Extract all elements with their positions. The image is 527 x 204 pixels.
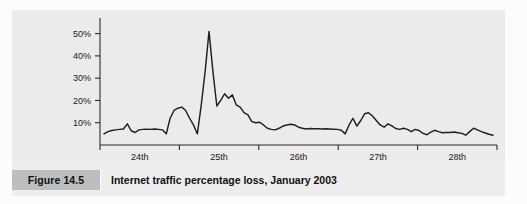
y-axis-tick-label: 20% [73, 96, 91, 106]
caption-divider [100, 170, 101, 190]
y-axis-tick-label: 10% [73, 118, 91, 128]
figure-number-badge: Figure 14.5 [12, 170, 100, 190]
figure-container: 10%20%30%40%50% 24th25th26th27th28th Fig… [0, 0, 527, 204]
x-axis-tick-label: 24th [131, 152, 149, 162]
line-chart: 10%20%30%40%50% 24th25th26th27th28th [12, 10, 505, 162]
y-axis-tick-label: 30% [73, 73, 91, 83]
x-axis-tick-label: 25th [210, 152, 228, 162]
y-axis-tick-label: 50% [73, 29, 91, 39]
x-axis-tick-label: 26th [290, 152, 308, 162]
x-axis-tick-label: 28th [449, 152, 467, 162]
y-axis: 10%20%30%40%50% [73, 18, 100, 145]
data-series-line [104, 31, 493, 135]
figure-caption-text: Internet traffic percentage loss, Januar… [111, 170, 337, 190]
x-axis-tick-label: 27th [369, 152, 387, 162]
figure-caption-strip: Figure 14.5 Internet traffic percentage … [12, 162, 505, 196]
figure-number-label: Figure 14.5 [28, 174, 85, 186]
y-axis-tick-label: 40% [73, 51, 91, 61]
chart-panel: 10%20%30%40%50% 24th25th26th27th28th [12, 10, 505, 162]
x-axis: 24th25th26th27th28th [100, 145, 497, 162]
